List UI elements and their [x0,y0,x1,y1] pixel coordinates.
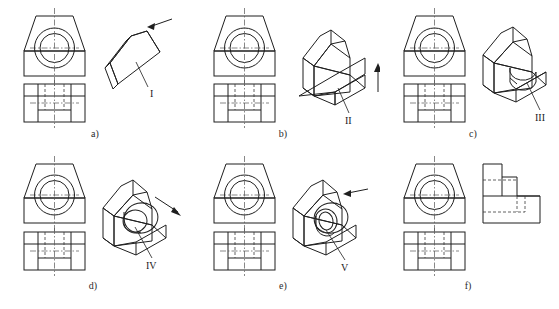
panel-c-front-view [404,8,465,86]
panel-e: V e) [190,150,380,309]
panel-f-top-view [404,228,465,276]
panel-e-isometric-pictorial [293,180,356,255]
panel-e-front-view [214,156,275,233]
panel-f-front-view [404,156,465,233]
panel-b-isometric-pictorial [299,30,365,105]
drawing-sheet: I a) [0,0,559,309]
panel-b-front-view [214,8,275,86]
panel-e-caption: e) [263,280,303,291]
panel-a-caption: a) [75,128,115,139]
panel-c-feature-label: III [535,112,545,123]
panel-a-direction-arrow [147,19,172,30]
panel-c: III c) [380,0,559,150]
panel-f-right-side-view [483,164,540,223]
panel-b-feature-leader [338,88,349,113]
panel-c-top-view [404,80,465,128]
panel-a: I a) [0,0,190,150]
panel-d-direction-arrow [155,197,181,216]
panel-a-feature-label: I [150,88,153,99]
panel-a-top-view [24,80,85,128]
panel-a-front-view [24,8,85,86]
panel-d-top-view [24,228,85,276]
panel-d-caption: d) [73,280,113,291]
panel-e-direction-arrow [343,189,368,197]
panel-f-caption: f) [448,280,488,291]
panel-a-isometric-pictorial [105,31,160,89]
panel-b: II b) [190,0,380,150]
panel-e-top-view [214,228,275,276]
panel-d-isometric-pictorial [103,180,166,255]
panel-d-feature-label: IV [146,260,157,271]
panel-e-feature-label: V [341,262,349,273]
panel-d-front-view [24,156,85,233]
panel-b-top-view [214,80,275,128]
panel-b-caption: b) [263,128,303,139]
panel-c-feature-leader [527,83,540,110]
panel-c-isometric-pictorial [483,27,546,102]
panel-b-feature-label: II [345,115,352,126]
panel-c-caption: c) [453,128,493,139]
panel-f: f) [380,150,559,309]
panel-d: IV d) [0,150,190,309]
